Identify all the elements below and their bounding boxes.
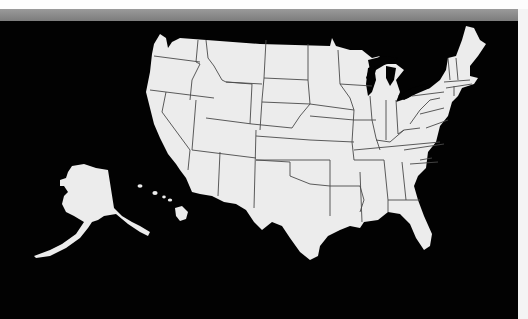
hawaii (138, 184, 189, 221)
right-margin (518, 9, 528, 319)
contiguous-us (146, 26, 486, 260)
alaska (34, 164, 150, 258)
top-margin (0, 0, 528, 9)
header-bar (0, 9, 518, 21)
map-panel (0, 21, 518, 319)
us-map (0, 21, 518, 319)
